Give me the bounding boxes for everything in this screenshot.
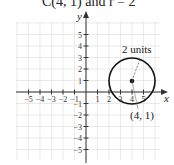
svg-text:−3: −3 <box>47 95 56 104</box>
coordinate-plane: −5−4−3−2−11234554321−1−2−3−4−5 2 units (… <box>0 0 174 165</box>
svg-text:−3: −3 <box>73 123 82 132</box>
center-label: (4, 1) <box>130 109 154 122</box>
svg-text:−5: −5 <box>73 146 82 155</box>
svg-text:1: 1 <box>96 95 100 104</box>
radius-line <box>132 59 140 81</box>
radius-label: 2 units <box>122 43 152 55</box>
svg-text:−2: −2 <box>59 95 68 104</box>
axes <box>16 11 168 163</box>
svg-text:−1: −1 <box>73 100 82 109</box>
svg-text:−2: −2 <box>73 111 82 120</box>
svg-text:4: 4 <box>78 42 82 51</box>
svg-text:2: 2 <box>78 65 82 74</box>
svg-text:5: 5 <box>78 31 82 40</box>
svg-text:1: 1 <box>78 77 82 86</box>
svg-text:−4: −4 <box>73 134 82 143</box>
svg-text:2: 2 <box>107 95 111 104</box>
svg-text:−4: −4 <box>36 95 45 104</box>
x-axis-label: x <box>163 92 169 104</box>
svg-text:−5: −5 <box>24 95 33 104</box>
svg-text:4: 4 <box>130 95 134 104</box>
svg-text:3: 3 <box>78 54 82 63</box>
y-axis-label: y <box>76 10 82 22</box>
